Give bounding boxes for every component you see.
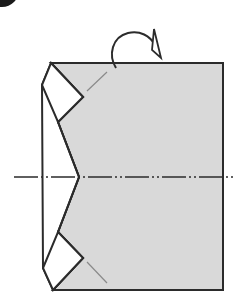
folding-diagram [0,0,234,304]
step-badge-icon [0,0,19,7]
